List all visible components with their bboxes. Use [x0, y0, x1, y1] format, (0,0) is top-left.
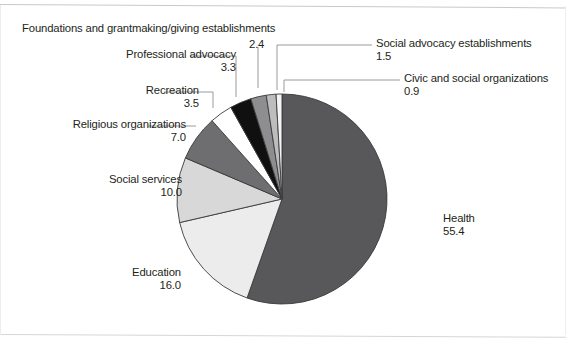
slice-label-religious-value: 7.0 — [26, 131, 186, 144]
slice-label-civic: Civic and social organizations 0.9 — [404, 72, 548, 98]
slice-label-foundations-category: Foundations and grantmaking/giving estab… — [22, 22, 275, 35]
slice-label-social-advocacy-category: Social advocacy establishments — [376, 37, 532, 50]
pie-chart-figure: Foundations and grantmaking/giving estab… — [0, 0, 566, 344]
slice-label-social-advocacy: Social advocacy establishments 1.5 — [376, 37, 532, 63]
slice-label-social-advocacy-value: 1.5 — [376, 50, 532, 63]
slice-label-health-category: Health — [443, 212, 475, 225]
slice-label-recreation-category: Recreation — [64, 84, 199, 97]
leader-line-social-advocacy — [277, 45, 372, 90]
slice-label-civic-value: 0.9 — [404, 85, 548, 98]
slice-label-recreation: Recreation 3.5 — [64, 84, 199, 110]
slice-label-recreation-value: 3.5 — [64, 97, 199, 110]
slice-label-religious: Religious organizations 7.0 — [26, 118, 186, 144]
slice-label-professional-advocacy-value: 3.3 — [64, 61, 236, 74]
leader-line-civic — [284, 80, 400, 92]
slice-label-health: Health 55.4 — [443, 212, 475, 238]
slice-label-social-services-value: 10.0 — [60, 186, 182, 199]
pie-slices — [177, 94, 387, 304]
slice-label-health-value: 55.4 — [443, 225, 475, 238]
slice-label-civic-category: Civic and social organizations — [404, 72, 548, 85]
slice-label-foundations: Foundations and grantmaking/giving estab… — [22, 22, 275, 35]
slice-label-foundations-value: 2.4 — [249, 38, 264, 51]
slice-label-social-services: Social services 10.0 — [60, 173, 182, 199]
slice-value-foundations: 2.4 — [249, 38, 264, 51]
slice-label-professional-advocacy-category: Professional advocacy — [64, 48, 236, 61]
slice-label-education-category: Education — [60, 266, 181, 279]
slice-label-professional-advocacy: Professional advocacy 3.3 — [64, 48, 236, 74]
slice-label-social-services-category: Social services — [60, 173, 182, 186]
slice-label-education-value: 16.0 — [60, 279, 181, 292]
slice-label-religious-category: Religious organizations — [26, 118, 186, 131]
slice-label-education: Education 16.0 — [60, 266, 181, 292]
